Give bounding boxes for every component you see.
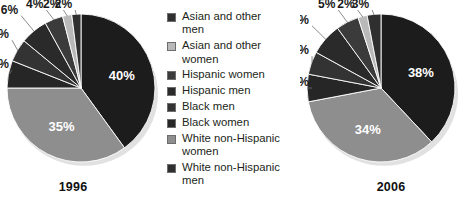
- slice-value-label: 2%: [55, 0, 73, 11]
- legend-item[interactable]: White non-Hispanic women: [167, 132, 280, 159]
- legend-swatch-icon: [167, 71, 176, 80]
- legend-item-label: Asian and other women: [182, 39, 261, 66]
- slice-value-label: 35%: [48, 119, 74, 134]
- pie-chart-2006: 38%34%6%5%7%5%2%3%: [300, 0, 462, 180]
- slice-value-label: 6%: [1, 3, 19, 17]
- leader-line: [12, 40, 18, 51]
- legend-item[interactable]: White non-Hispanic men: [167, 161, 280, 188]
- slice-value-label: 6%: [300, 75, 309, 89]
- chart-legend: Asian and other menAsian and other women…: [167, 10, 297, 205]
- leader-line: [46, 10, 54, 20]
- legend-swatch-icon: [167, 164, 176, 173]
- leader-line: [312, 26, 326, 40]
- chart-panel-2006: 38%34%6%5%7%5%2%3% 2006: [300, 0, 462, 208]
- legend-item-label: Black women: [182, 116, 249, 129]
- slice-value-label: 40%: [109, 68, 135, 83]
- legend-swatch-icon: [167, 13, 176, 22]
- legend-item-label: White non-Hispanic men: [182, 161, 280, 188]
- legend-swatch-icon: [167, 42, 176, 51]
- legend-item-label: Black men: [182, 100, 235, 113]
- legend-swatch-icon: [167, 87, 176, 96]
- slice-value-label: 38%: [408, 65, 434, 80]
- year-label-1996: 1996: [0, 180, 154, 194]
- slice-value-label: 4%: [26, 0, 44, 11]
- legend-item-label: White non-Hispanic women: [182, 132, 280, 159]
- legend-item-label: Hispanic men: [182, 84, 250, 97]
- slice-value-label: 5%: [318, 0, 336, 11]
- leader-line: [358, 10, 363, 17]
- legend-item[interactable]: Hispanic women: [167, 68, 265, 81]
- legend-item[interactable]: Black women: [167, 116, 249, 129]
- legend-item[interactable]: Asian and other women: [167, 39, 261, 66]
- legend-swatch-icon: [167, 103, 176, 112]
- chart-panel-1996: 40%35%6%5%6%4%2%2% 1996: [0, 0, 162, 208]
- slice-value-label: 6%: [0, 57, 9, 71]
- slice-value-label: 5%: [300, 43, 309, 57]
- legend-item[interactable]: Asian and other men: [167, 10, 261, 37]
- legend-item-label: Asian and other men: [182, 10, 261, 37]
- slice-value-label: 7%: [300, 13, 309, 27]
- legend-item[interactable]: Hispanic men: [167, 84, 250, 97]
- legend-item[interactable]: Black men: [167, 100, 235, 113]
- year-label-2006: 2006: [310, 180, 462, 194]
- slice-value-label: 5%: [0, 27, 9, 41]
- leader-line: [338, 10, 347, 23]
- legend-swatch-icon: [167, 135, 176, 144]
- pie-chart-1996: 40%35%6%5%6%4%2%2%: [0, 0, 162, 180]
- legend-item-label: Hispanic women: [182, 68, 265, 81]
- pie-chart-figure: 40%35%6%5%6%4%2%2% 1996 Asian and other …: [0, 0, 462, 208]
- leader-line: [21, 16, 34, 32]
- legend-swatch-icon: [167, 119, 176, 128]
- slice-value-label: 34%: [355, 122, 381, 137]
- slice-value-label: 3%: [352, 0, 370, 11]
